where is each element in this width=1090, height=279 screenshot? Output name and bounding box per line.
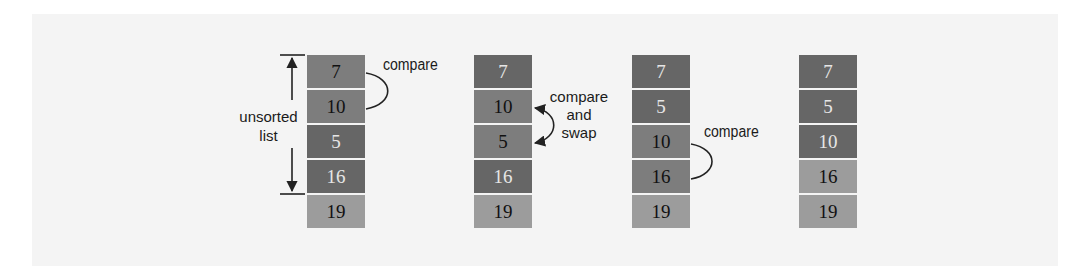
list-cell: 16 [799,160,857,193]
list-cell: 19 [307,195,365,228]
list-cell: 10 [307,90,365,123]
list-cell: 5 [474,125,532,158]
list-cell: 19 [632,195,690,228]
list-cell: 10 [799,125,857,158]
list-step-4: 7 5 10 16 19 [799,55,857,230]
list-cell: 7 [799,55,857,88]
unsorted-list-label: unsorted list [232,107,305,145]
compare-label: compare [704,123,759,141]
compare-curve-icon [691,144,712,179]
compare-and-swap-label: compare and swap [543,88,615,142]
list-cell: 10 [632,125,690,158]
list-step-1: 7 10 5 16 19 [307,55,365,230]
list-cell: 7 [307,55,365,88]
label-line: list [232,126,305,145]
list-cell: 7 [474,55,532,88]
label-line: and [543,106,615,124]
label-line: compare [543,88,615,106]
list-step-3: 7 5 10 16 19 [632,55,690,230]
list-cell: 16 [632,160,690,193]
list-cell: 16 [307,160,365,193]
label-line: swap [543,124,615,142]
list-cell: 5 [799,90,857,123]
compare-curve-icon [366,73,388,109]
list-cell: 7 [632,55,690,88]
compare-label: compare [383,56,438,74]
list-cell: 19 [799,195,857,228]
list-cell: 16 [474,160,532,193]
list-cell: 5 [307,125,365,158]
list-cell: 10 [474,90,532,123]
list-cell: 19 [474,195,532,228]
list-step-2: 7 10 5 16 19 [474,55,532,230]
label-line: unsorted [232,107,305,126]
list-cell: 5 [632,90,690,123]
